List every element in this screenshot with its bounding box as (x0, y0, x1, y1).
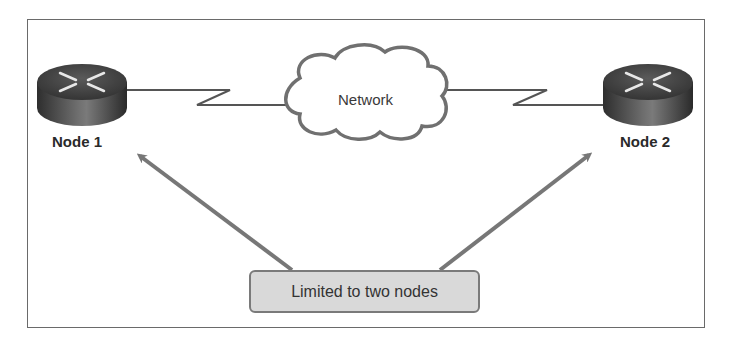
node1-label: Node 1 (52, 133, 102, 150)
serial-link-right (445, 90, 603, 105)
router-icon-node2 (603, 64, 693, 126)
callout-box: Limited to two nodes (249, 270, 480, 313)
serial-link-left (127, 90, 287, 105)
arrow-to-node2 (440, 155, 589, 270)
arrow-to-node1 (140, 156, 292, 270)
router-icon-node1 (37, 64, 127, 126)
callout-text: Limited to two nodes (291, 283, 438, 301)
network-label: Network (338, 91, 393, 108)
node2-label: Node 2 (620, 133, 670, 150)
